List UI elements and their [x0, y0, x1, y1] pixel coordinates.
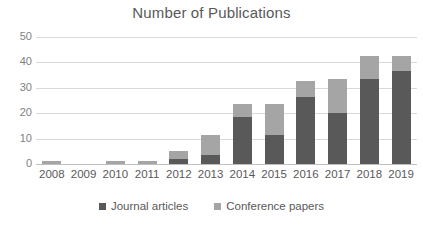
- bar-segment: [201, 135, 220, 155]
- bar-segment: [392, 71, 411, 164]
- x-tick-label-2013: 2013: [195, 167, 227, 181]
- bar-group: [169, 37, 188, 164]
- x-tick-label-2015: 2015: [258, 167, 290, 181]
- bar-segment: [201, 155, 220, 164]
- x-tick-label-2017: 2017: [322, 167, 354, 181]
- bar-group: [328, 37, 347, 164]
- x-tick-label-2008: 2008: [36, 167, 68, 181]
- legend-label: Journal articles: [111, 200, 188, 212]
- bar-group: [392, 37, 411, 164]
- bar-group: [42, 37, 61, 164]
- x-axis-tick-labels: 2008200920102011201220132014201520162017…: [36, 167, 417, 185]
- bar-segment: [296, 97, 315, 164]
- legend-label: Conference papers: [226, 200, 324, 212]
- x-tick-label-2014: 2014: [227, 167, 259, 181]
- y-tick-label-40: 40: [2, 56, 32, 67]
- x-tick-label-2016: 2016: [290, 167, 322, 181]
- bar-segment: [265, 135, 284, 164]
- bar-group: [296, 37, 315, 164]
- bar-segment: [42, 161, 61, 164]
- bar-segment: [169, 151, 188, 159]
- bar-segment: [328, 113, 347, 164]
- x-tick-label-2012: 2012: [163, 167, 195, 181]
- bar-group: [74, 37, 93, 164]
- x-tick-label-2011: 2011: [131, 167, 163, 181]
- bar-segment: [169, 159, 188, 164]
- y-tick-label-10: 10: [2, 133, 32, 144]
- y-tick-label-0: 0: [2, 158, 32, 169]
- bar-segment: [360, 56, 379, 79]
- plot-area: [36, 37, 417, 164]
- bar-segment: [233, 104, 252, 117]
- bar-segment: [392, 56, 411, 71]
- bar-group: [233, 37, 252, 164]
- x-tick-label-2009: 2009: [68, 167, 100, 181]
- legend-swatch-conference-papers: [214, 203, 221, 210]
- bar-segment: [265, 104, 284, 134]
- y-tick-label-30: 30: [2, 82, 32, 93]
- bar-segment: [360, 79, 379, 164]
- bars-layer: [36, 37, 417, 164]
- x-tick-label-2019: 2019: [385, 167, 417, 181]
- bar-segment: [106, 161, 125, 164]
- legend-item[interactable]: Conference papers: [214, 200, 324, 212]
- bar-segment: [138, 161, 157, 164]
- bar-group: [201, 37, 220, 164]
- bar-group: [265, 37, 284, 164]
- bar-group: [106, 37, 125, 164]
- legend-swatch-journal-articles: [99, 203, 106, 210]
- bar-segment: [233, 117, 252, 164]
- bar-segment: [296, 81, 315, 96]
- publications-bar-chart: Number of Publications 01020304050 20082…: [0, 0, 423, 231]
- y-tick-label-50: 50: [2, 31, 32, 42]
- bar-group: [138, 37, 157, 164]
- x-axis-line: [36, 164, 417, 165]
- x-tick-label-2010: 2010: [100, 167, 132, 181]
- bar-group: [360, 37, 379, 164]
- legend-item[interactable]: Journal articles: [99, 200, 188, 212]
- bar-segment: [328, 79, 347, 113]
- chart-title: Number of Publications: [0, 4, 423, 21]
- y-tick-label-20: 20: [2, 107, 32, 118]
- chart-legend: Journal articlesConference papers: [0, 200, 423, 212]
- x-tick-label-2018: 2018: [354, 167, 386, 181]
